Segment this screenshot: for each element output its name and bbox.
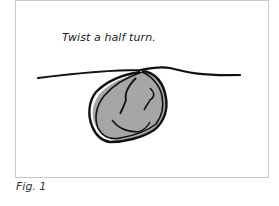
twist-illustration	[0, 0, 279, 206]
figure-label: Fig. 1	[16, 180, 46, 193]
